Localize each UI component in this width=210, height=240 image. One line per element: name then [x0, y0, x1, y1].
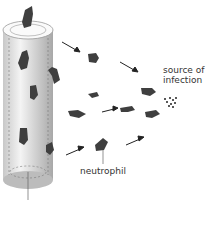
infection-source — [164, 97, 177, 108]
source-label-line1: source of — [163, 65, 204, 75]
source-label-line2: infection — [163, 75, 204, 85]
blood-vessel — [3, 21, 53, 200]
neutrophil-label: neutrophil — [80, 166, 126, 176]
source-label: source of infection — [163, 65, 204, 85]
